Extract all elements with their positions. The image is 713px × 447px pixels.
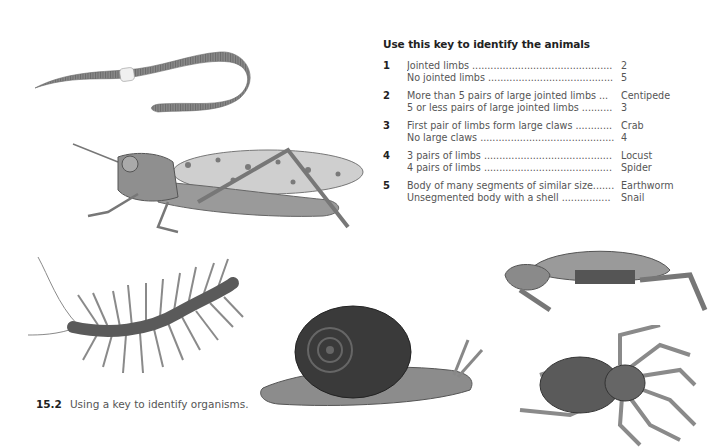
earthworm-illustration [30,48,260,118]
figure-caption: 15.2Using a key to identify organisms. [36,398,249,410]
couplet-result: 4 [621,132,685,144]
key-couplet-4: 4 3 pairs of limbs .....................… [383,150,703,174]
couplet-result: Earthworm [621,180,685,192]
couplet-line: Body of many segments of similar size...… [407,180,615,192]
key-couplet-3: 3 First pair of limbs form large claws .… [383,120,703,144]
couplet-number: 4 [383,150,407,174]
identification-key: Use this key to identify the animals 1 J… [383,38,703,210]
couplet-line: No jointed limbs .......................… [407,72,615,84]
spider-illustration [510,325,710,447]
crab-illustration [490,240,710,320]
couplet-result: 5 [621,72,685,84]
key-couplet-1: 1 Jointed limbs ........................… [383,60,703,84]
couplet-number: 2 [383,90,407,114]
couplet-result: Crab [621,120,685,132]
snail-illustration [258,300,488,415]
couplet-line: No large claws .........................… [407,132,615,144]
couplet-line: Unsegmented body with a shell ..........… [407,192,615,204]
caption-text: Using a key to identify organisms. [70,398,249,410]
couplet-result: Snail [621,192,685,204]
couplet-number: 1 [383,60,407,84]
couplet-line: 3 pairs of limbs .......................… [407,150,615,162]
couplet-result: Centipede [621,90,685,102]
couplet-line: 5 or less pairs of large jointed limbs .… [407,102,615,114]
couplet-line: First pair of limbs form large claws ...… [407,120,615,132]
locust-illustration [68,132,368,237]
figure-number: 15.2 [36,398,62,410]
couplet-result: 3 [621,102,685,114]
couplet-result: Locust [621,150,685,162]
couplet-number: 3 [383,120,407,144]
key-couplet-5: 5 Body of many segments of similar size.… [383,180,703,204]
couplet-result: Spider [621,162,685,174]
couplet-number: 5 [383,180,407,204]
key-couplet-2: 2 More than 5 pairs of large jointed lim… [383,90,703,114]
centipede-illustration [28,255,258,385]
key-title: Use this key to identify the animals [383,38,703,50]
couplet-line: More than 5 pairs of large jointed limbs… [407,90,615,102]
couplet-line: Jointed limbs ..........................… [407,60,615,72]
couplet-line: 4 pairs of limbs .......................… [407,162,615,174]
couplet-result: 2 [621,60,685,72]
